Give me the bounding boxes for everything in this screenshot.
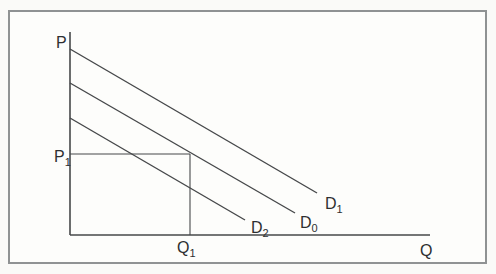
figure: P Q P1 Q1 D1 D0 D2 (0, 0, 496, 274)
quantity-q1-subscript: 1 (189, 247, 195, 259)
price-p1-subscript: 1 (65, 156, 71, 168)
demand-curve-d1 (70, 49, 317, 193)
price-p1-label: P1 (54, 149, 71, 168)
demand-curve-d0 (70, 83, 295, 213)
curve-d2-base: D (251, 219, 263, 236)
curve-d1-subscript: 1 (337, 203, 343, 215)
quantity-q1-base: Q (177, 239, 189, 256)
y-axis-label: P (56, 35, 67, 51)
curve-d1-label: D1 (325, 196, 343, 215)
curve-d2-subscript: 2 (263, 227, 269, 239)
quantity-q1-label: Q1 (177, 240, 196, 259)
curve-d1-base: D (325, 195, 337, 212)
demand-diagram (0, 0, 496, 274)
curve-d0-label: D0 (300, 215, 318, 234)
curve-d0-base: D (300, 214, 312, 231)
x-axis-label: Q (420, 243, 432, 259)
curve-d2-label: D2 (251, 220, 269, 239)
price-p1-base: P (54, 148, 65, 165)
curve-d0-subscript: 0 (312, 222, 318, 234)
